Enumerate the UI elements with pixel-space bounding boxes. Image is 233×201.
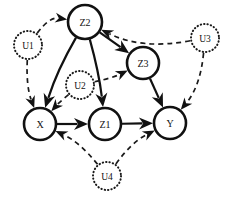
causal-graph: Z2Z3XZ1YU1U2U3U4 (0, 0, 233, 201)
edge-z3-y (150, 79, 159, 98)
node-u1[interactable]: U1 (14, 31, 42, 59)
edge-u3-y (186, 53, 203, 103)
node-x[interactable]: X (24, 108, 56, 140)
node-z2-circle[interactable] (68, 5, 102, 39)
node-z1[interactable]: Z1 (89, 108, 121, 140)
node-y-circle[interactable] (154, 107, 186, 139)
edge-u4-x (64, 135, 98, 165)
node-u3[interactable]: U3 (191, 24, 219, 52)
edge-u1-x (27, 60, 31, 100)
edge-u1-z2-arrowhead (55, 13, 68, 23)
node-u2[interactable]: U2 (66, 71, 94, 99)
node-y[interactable]: Y (154, 107, 186, 139)
edges-layer (25, 13, 203, 165)
node-u4[interactable]: U4 (93, 162, 121, 190)
node-u1-circle[interactable] (14, 31, 42, 59)
node-z3[interactable]: Z3 (127, 47, 159, 79)
edge-u4-y (116, 135, 147, 164)
node-u2-circle[interactable] (66, 71, 94, 99)
node-z1-circle[interactable] (89, 108, 121, 140)
node-z2[interactable]: Z2 (68, 5, 102, 39)
edge-u1-z2 (37, 18, 58, 33)
edge-u2-x (57, 95, 68, 105)
edge-z2-z3-arrowhead (114, 40, 129, 53)
causal-diagram-canvas: Z2Z3XZ1YU1U2U3U4 (0, 0, 233, 201)
edge-u3-y-arrowhead (181, 97, 192, 109)
node-u3-circle[interactable] (191, 24, 219, 52)
node-x-circle[interactable] (24, 108, 56, 140)
node-u4-circle[interactable] (93, 162, 121, 190)
edge-u4-x-arrowhead (55, 131, 68, 141)
node-z3-circle[interactable] (127, 47, 159, 79)
